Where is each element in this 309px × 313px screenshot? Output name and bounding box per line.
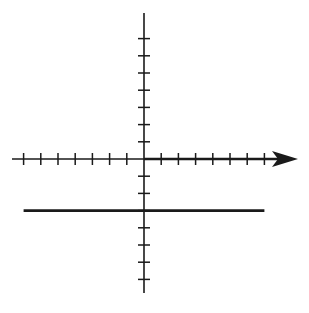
coordinate-plane [0,0,309,313]
axes [12,13,298,293]
